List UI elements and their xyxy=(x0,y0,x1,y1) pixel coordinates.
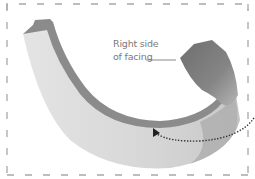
right-side-of-facing-label: Right side of facing xyxy=(113,38,159,63)
label-line-1: Right side xyxy=(113,38,159,51)
label-line-2: of facing xyxy=(113,51,159,64)
facing-illustration xyxy=(0,0,255,179)
folded-end-right-side xyxy=(180,40,238,106)
